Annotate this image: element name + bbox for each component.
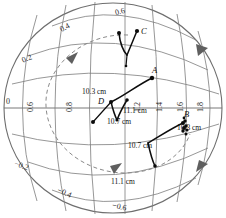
point-label-a: A xyxy=(152,66,157,75)
pole-figure-container: 0.2 0.4 0.6 −0.2 −0.4 −0.6 0 0.6 0.8 1.2… xyxy=(0,0,226,218)
distance-label-4: 10.7 cm xyxy=(128,142,152,150)
point-label-b: B xyxy=(184,110,189,119)
axis-label-equator-0: 0.6 xyxy=(27,102,35,112)
axis-label-origin: 0 xyxy=(6,98,10,106)
distance-label-0: 10.3 cm xyxy=(82,88,106,96)
point-label-d: D xyxy=(98,97,104,106)
axis-label-equator-5: 1.8 xyxy=(197,102,205,112)
point-label-c: C xyxy=(141,27,147,36)
distance-label-3: 10.3 cm xyxy=(177,124,201,132)
axis-label-equator-1: 0.8 xyxy=(66,102,74,112)
distance-label-2: 10.7 cm xyxy=(107,118,131,126)
distance-label-1: 11.1 cm xyxy=(123,107,147,115)
distance-label-5: 11.1 cm xyxy=(111,178,135,186)
axis-label-equator-3: 1.4 xyxy=(156,102,164,112)
